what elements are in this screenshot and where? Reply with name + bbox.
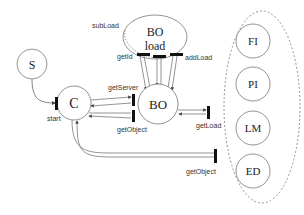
port-getload[interactable]	[207, 106, 210, 119]
node-c-label: C	[69, 96, 78, 111]
node-lm-label: LM	[245, 122, 262, 134]
port-addload-label: addLoad	[185, 54, 212, 61]
port-getload-label: getLoad	[196, 122, 221, 130]
edge-addload-2	[172, 56, 177, 90]
node-bo[interactable]: BO	[138, 84, 178, 124]
node-ed-label: ED	[246, 165, 261, 177]
port-start-label: start	[47, 115, 61, 122]
port-getobject-group[interactable]	[214, 149, 217, 163]
edge-c-getobject-2	[89, 116, 131, 118]
port-getobject-bo-label: getObject	[117, 126, 147, 134]
port-getobject-group-label: getObject	[186, 168, 216, 176]
node-bo-load-label-2: load	[145, 39, 166, 53]
edge-c-getobject-group-1	[72, 120, 214, 153]
port-subload-label: subLoad	[92, 22, 119, 29]
port-addload[interactable]	[170, 53, 183, 56]
node-bo-load-label-1: BO	[147, 25, 164, 39]
node-fi-label: FI	[248, 35, 258, 47]
node-s-label: S	[29, 58, 36, 72]
edge-s-start	[32, 79, 55, 103]
node-bo-load[interactable]: BO load	[123, 15, 187, 59]
port-subload[interactable]	[153, 55, 166, 58]
node-bo-label: BO	[149, 97, 167, 112]
edge-c-getserver-in	[91, 103, 131, 106]
node-c[interactable]: C	[57, 86, 91, 120]
port-getobject-bo[interactable]	[132, 110, 135, 122]
node-ed[interactable]: ED	[236, 154, 270, 188]
edge-addload-1	[168, 56, 173, 88]
port-getserver-label: getServer	[108, 84, 139, 92]
edge-c-getserver-out	[91, 97, 131, 100]
node-pi[interactable]: PI	[236, 67, 270, 101]
node-fi[interactable]: FI	[236, 24, 270, 58]
port-getid-label: getId	[117, 53, 133, 61]
port-getid[interactable]	[137, 53, 150, 56]
component-diagram: S C start BO load subLoad getId addLoad …	[0, 0, 304, 215]
node-lm[interactable]: LM	[236, 111, 270, 145]
node-pi-label: PI	[248, 78, 258, 90]
port-getserver[interactable]	[132, 94, 135, 106]
port-start[interactable]	[55, 97, 58, 110]
node-s[interactable]: S	[17, 49, 47, 79]
